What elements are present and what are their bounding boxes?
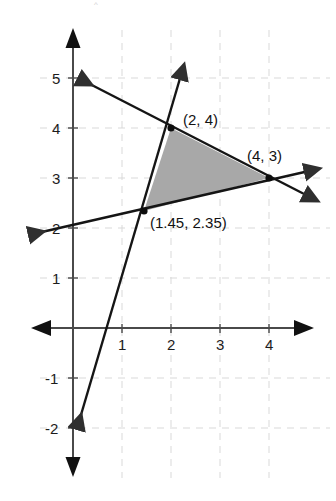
x-tick-label-1: 1: [118, 337, 126, 352]
vertex-dot-2-4: [167, 124, 174, 131]
x-tick-label-2: 2: [167, 337, 175, 352]
coordinate-plane-figure: ^: [0, 0, 336, 501]
point-label-2-4: (2, 4): [183, 112, 218, 127]
x-tick-label-4: 4: [265, 337, 273, 352]
x-axis-arrow-right: [294, 320, 314, 336]
y-tick-label-neg2: -2: [45, 421, 58, 436]
y-tick-label-2: 2: [52, 221, 60, 236]
y-axis-arrow-up: [66, 28, 81, 48]
point-label-4-3: (4, 3): [247, 148, 282, 163]
vertex-dot-4-3: [265, 174, 272, 181]
y-axis-arrow-down: [66, 457, 81, 477]
axes-group: [31, 28, 314, 477]
x-tick-label-3: 3: [216, 337, 224, 352]
gridlines: [40, 30, 330, 478]
y-tick-label-4: 4: [52, 121, 60, 136]
point-label-1p45-2p35: (1.45, 2.35): [150, 215, 227, 230]
y-tick-label-neg1: -1: [45, 371, 58, 386]
y-tick-label-3: 3: [52, 171, 60, 186]
y-tick-label-1: 1: [52, 271, 60, 286]
x-axis-arrow-left: [31, 320, 51, 336]
y-tick-label-5: 5: [52, 71, 60, 86]
vertex-dot-1p45-2p35: [140, 207, 147, 214]
